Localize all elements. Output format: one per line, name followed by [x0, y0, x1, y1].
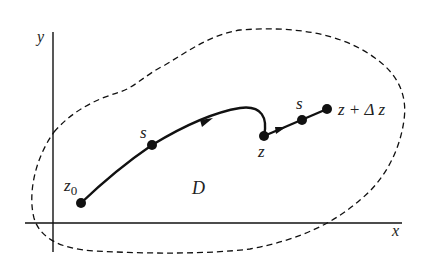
- label-z-plus-dz: z + Δ z: [337, 100, 386, 119]
- diagram-canvas: y x z0 s D z s z + Δ z: [0, 0, 430, 269]
- x-axis-label: x: [391, 222, 399, 239]
- increment-segment: [264, 109, 327, 136]
- label-z0-subscript: 0: [71, 183, 78, 198]
- integration-path: [81, 108, 265, 203]
- label-z: z: [257, 142, 265, 161]
- label-s1: s: [140, 123, 147, 142]
- label-z0: z0: [63, 176, 77, 198]
- y-axis-label: y: [35, 28, 45, 46]
- point-s1: [147, 140, 157, 150]
- point-z: [259, 131, 269, 141]
- point-z0: [76, 198, 86, 208]
- region-boundary: [32, 29, 405, 253]
- segment-direction-arrow-icon: [275, 127, 286, 134]
- point-s2: [297, 115, 307, 125]
- label-region-d: D: [191, 178, 205, 198]
- label-s2: s: [296, 94, 303, 113]
- point-z-plus-dz: [322, 104, 332, 114]
